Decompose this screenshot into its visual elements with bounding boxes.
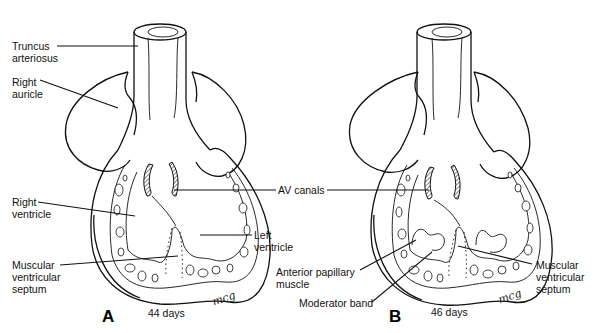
- right-auricle-shape-a: [65, 72, 130, 171]
- av-canal-right-a: [169, 162, 178, 196]
- age-label-a: 44 days: [148, 307, 185, 319]
- heart-development-figure: Truncus arteriosus Right auricle Right v…: [0, 0, 599, 333]
- truncus-top-b: [417, 24, 471, 40]
- leader-septum-a: [60, 256, 178, 265]
- panel-letter-a: A: [102, 307, 114, 327]
- label-muscular-septum-a: Muscular ventricular septum: [12, 259, 60, 295]
- heart-b: [290, 24, 552, 305]
- left-auricle-shape-a: [192, 72, 246, 176]
- label-right-auricle: Right auricle: [12, 76, 43, 100]
- leader-right-auricle: [40, 80, 118, 108]
- trabeculae-a: [114, 172, 250, 282]
- label-left-ventricle: Left ventricle: [254, 229, 293, 253]
- heart-a: [38, 24, 290, 304]
- ventricle-body-a: [91, 148, 270, 304]
- ventricle-body-b: [371, 150, 552, 305]
- label-moderator-band: Moderator band: [299, 297, 373, 309]
- label-anterior-papillary-muscle: Anterior papillary muscle: [276, 266, 355, 290]
- av-canal-left-b: [425, 167, 434, 199]
- av-canal-left-a: [144, 164, 153, 196]
- left-auricle-shape-b: [474, 72, 530, 178]
- panel-letter-b: B: [389, 307, 401, 327]
- right-auricle-shape-b: [349, 72, 418, 172]
- label-truncus-arteriosus: Truncus arteriosus: [12, 40, 58, 64]
- leader-right-ventricle-a: [38, 202, 135, 216]
- av-canal-right-b: [451, 165, 460, 199]
- leader-septum-b: [458, 246, 532, 264]
- leader-anterior-papillary: [360, 240, 416, 270]
- label-av-canals: AV canals: [276, 184, 327, 196]
- label-right-ventricle: Right ventricle: [12, 196, 51, 220]
- age-label-b: 46 days: [431, 306, 468, 318]
- label-muscular-septum-b: Muscular ventricular septum: [536, 259, 584, 295]
